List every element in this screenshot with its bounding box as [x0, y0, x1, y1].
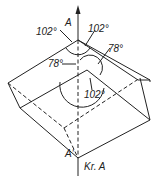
- axis-arrow-icon: [76, 5, 81, 14]
- axis-caption: Kr. A: [84, 161, 106, 172]
- crystal-diagram: A 102° 102° 78° 78° 102° A' Kr. A: [0, 0, 157, 181]
- angle-top-left: 102°: [36, 26, 57, 37]
- angle-bottom: 102°: [84, 89, 105, 100]
- leader: [60, 30, 72, 42]
- edge: [78, 120, 150, 158]
- angle-top-right: 102°: [88, 23, 109, 34]
- angle-left-mid: 78°: [48, 58, 63, 69]
- axis-bottom-label: A': [64, 148, 75, 159]
- angle-right-mid: 78°: [108, 43, 123, 54]
- axis-top-label: A: [64, 17, 72, 28]
- edge: [8, 83, 20, 108]
